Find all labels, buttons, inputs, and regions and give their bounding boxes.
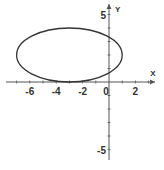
x-axis-label: X: [150, 69, 156, 78]
x-axis-arrow-icon: [150, 80, 155, 85]
y-tick-label: -5: [97, 145, 106, 156]
ellipse-curve: [17, 28, 123, 82]
x-tick-label: -6: [25, 86, 34, 97]
x-tick-label: 2: [133, 86, 139, 97]
ellipse-path: [17, 28, 123, 82]
x-tick-label: 0: [103, 86, 109, 97]
y-axis-arrow-icon: [107, 4, 112, 9]
x-tick-label: -4: [52, 86, 61, 97]
y-axis-label: Y: [115, 5, 121, 14]
x-tick-label: -2: [78, 86, 87, 97]
ellipse-graph: -6-4-2025-5XY: [0, 0, 164, 170]
y-tick-label: 5: [100, 10, 106, 21]
